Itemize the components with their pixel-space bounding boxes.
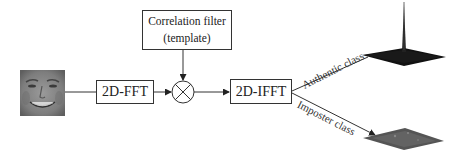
multiplier-icon (172, 81, 194, 103)
ifft-label: 2D-IFFT (236, 84, 287, 100)
correlation-filter-box: Correlation filter (template) (142, 10, 232, 50)
authentic-correlation-plane-icon (362, 2, 446, 66)
ifft-box: 2D-IFFT (230, 79, 292, 104)
fft-label: 2D-FFT (102, 84, 148, 100)
template-label: (template) (163, 30, 210, 47)
fft-box: 2D-FFT (96, 80, 154, 104)
imposter-correlation-plane-icon (363, 128, 444, 150)
correlation-filter-label: Correlation filter (148, 13, 226, 30)
